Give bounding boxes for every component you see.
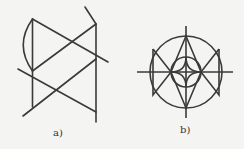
diagonal-3 [18,69,96,112]
figure-a [18,7,108,122]
top-tick-line [85,7,96,24]
diagonal-2 [33,24,97,71]
diagonal-4 [23,59,96,116]
figure-a-label: a) [53,127,63,138]
diagram-canvas [0,0,244,149]
left-arc [23,19,32,71]
figure-b-label: b) [180,124,190,135]
figure-b [137,26,233,118]
